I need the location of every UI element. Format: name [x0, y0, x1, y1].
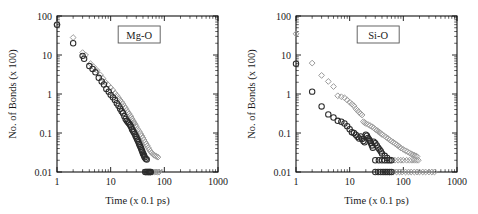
data-point-diamond [70, 35, 76, 41]
x-tick-label: 100 [396, 176, 411, 187]
series-label-text: Mg-O [126, 30, 152, 41]
data-point-diamond [309, 60, 315, 66]
data-point-circle [70, 41, 75, 46]
data-series-diamond [293, 31, 437, 175]
x-tick-label: 100 [157, 176, 172, 187]
data-point-circle [319, 104, 324, 109]
data-point-diamond [319, 72, 325, 78]
y-tick-label: 0.01 [274, 167, 292, 178]
data-point-circle [326, 112, 331, 117]
y-tick-label: 10 [42, 50, 52, 61]
y-tick-label: 0.1 [40, 128, 53, 139]
x-tick-label: 1000 [208, 176, 228, 187]
series-label-text: Si-O [368, 30, 388, 41]
scatter-plot-mg-o: 11010010000.010.1110100Mg-OTime (x 0.1 p… [0, 0, 239, 214]
y-tick-label: 100 [276, 11, 291, 22]
data-series-circle [54, 22, 153, 175]
scatter-plot-si-o: 11010010000.010.1110100Si-OTime (x 0.1 p… [239, 0, 478, 214]
y-tick-label: 10 [281, 50, 291, 61]
y-tick-label: 0.1 [279, 128, 292, 139]
y-tick-label: 1 [47, 89, 52, 100]
figure-container: 11010010000.010.1110100Mg-OTime (x 0.1 p… [0, 0, 478, 214]
x-axis-title: Time (x 0.1 ps) [344, 195, 409, 207]
y-tick-label: 0.01 [35, 167, 53, 178]
data-series-circle [293, 61, 394, 175]
y-tick-label: 100 [37, 11, 52, 22]
y-tick-label: 1 [286, 89, 291, 100]
y-axis-title: No. of Bonds (x 100) [7, 49, 19, 139]
x-tick-label: 10 [345, 176, 355, 187]
x-tick-label: 1 [294, 176, 299, 187]
x-tick-label: 1000 [447, 176, 467, 187]
data-point-circle [309, 89, 314, 94]
chart-panel-si-o: 11010010000.010.1110100Si-OTime (x 0.1 p… [239, 0, 478, 214]
y-axis-title: No. of Bonds (x 100) [246, 49, 258, 139]
chart-panel-mg-o: 11010010000.010.1110100Mg-OTime (x 0.1 p… [0, 0, 239, 214]
data-point-diamond [331, 84, 337, 90]
data-point-diamond [325, 79, 331, 85]
x-tick-label: 10 [106, 176, 116, 187]
x-axis-title: Time (x 0.1 ps) [105, 195, 170, 207]
x-tick-label: 1 [55, 176, 60, 187]
